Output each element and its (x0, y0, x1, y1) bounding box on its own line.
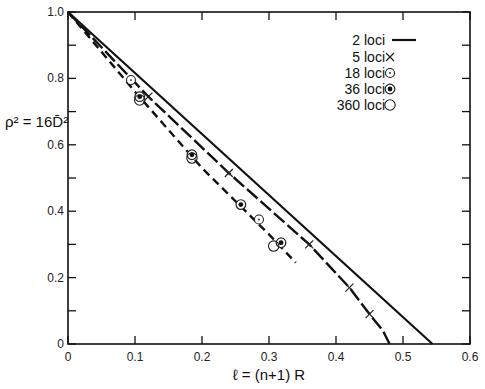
x-marker-icon (366, 310, 374, 318)
x-tick-label: 0.5 (395, 350, 412, 364)
x-tick-label: 0.4 (328, 350, 345, 364)
y-tick-label: 0.4 (47, 204, 64, 218)
legend-label: 2 loci (352, 32, 385, 48)
x-marker-icon (345, 284, 353, 292)
open-circle-marker-icon (385, 100, 395, 110)
x-tick-label: 0.2 (194, 350, 211, 364)
x-marker-icon (305, 240, 313, 248)
legend-label: 36 loci (345, 81, 385, 97)
chart: 00.10.20.30.40.50.6 00.20.40.60.81.0 2 l… (0, 0, 485, 389)
legend-label: 360 loci (337, 97, 385, 113)
bullseye-marker-icon (236, 200, 246, 210)
dotted-circle-marker-icon (126, 76, 135, 85)
legend: 2 loci5 loci18 loci36 loci360 loci (337, 32, 416, 113)
plot-frame (68, 12, 470, 344)
y-tick-label: 0 (57, 337, 64, 351)
x-marker-icon (386, 53, 394, 61)
bullseye-marker-icon (385, 84, 395, 94)
x-axis-title: ℓ = (n+1) R (233, 366, 306, 383)
legend-label: 5 loci (352, 49, 385, 65)
plot-border (68, 12, 470, 344)
y-axis-title: ρ² = 16D̄² (5, 113, 68, 130)
dotted-circle-marker-icon (254, 215, 263, 224)
x-tick-label: 0.6 (462, 350, 479, 364)
y-tick-label: 0.6 (47, 138, 64, 152)
x-tick-label: 0.1 (127, 350, 144, 364)
y-tick-label: 0.2 (47, 271, 64, 285)
y-tick-label: 1.0 (47, 5, 64, 19)
x-tick-label: 0 (65, 350, 72, 364)
x-marker-icon (144, 93, 152, 101)
x-tick-label: 0.3 (261, 350, 278, 364)
x-marker-icon (225, 169, 233, 177)
legend-label: 18 loci (345, 65, 385, 81)
y-tick-label: 0.8 (47, 71, 64, 85)
dotted-circle-marker-icon (386, 69, 395, 78)
series-line (68, 12, 390, 344)
series-line (68, 12, 296, 263)
